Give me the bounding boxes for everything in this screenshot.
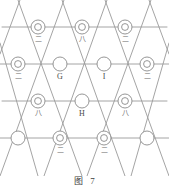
node-label-n-r0-c1: 二 bbox=[31, 36, 45, 43]
lattice-node-double-circle bbox=[53, 131, 67, 145]
lattice-node-double-circle bbox=[118, 94, 132, 108]
lattice-node-circle bbox=[75, 94, 89, 108]
lattice-node-double-circle bbox=[31, 20, 45, 34]
node-label-n-r3-c2: 二 bbox=[97, 147, 111, 154]
node-label-n-r0-c3: 二 bbox=[118, 36, 132, 43]
lattice-node-double-circle bbox=[118, 20, 132, 34]
lattice-node-double-circle bbox=[31, 94, 45, 108]
caption-number: 7 bbox=[90, 176, 95, 186]
lattice-edge-diagonal bbox=[62, 0, 125, 176]
figure-caption: 图7 bbox=[0, 174, 169, 187]
lattice-node-double-circle bbox=[97, 131, 111, 145]
horizontal-edge-group bbox=[0, 27, 169, 138]
node-label-n-r1-c0: 二 bbox=[11, 73, 25, 80]
caption-label: 图 bbox=[74, 176, 83, 186]
node-label-n-r1-c2: I bbox=[97, 73, 111, 81]
lattice-node-circle bbox=[97, 57, 111, 71]
lattice-node-double-circle bbox=[75, 20, 89, 34]
node-label-n-r1-c3: 二 bbox=[140, 73, 154, 80]
lattice-node-circle bbox=[11, 131, 25, 145]
node-label-n-r1-c1: G bbox=[53, 73, 67, 81]
lattice-node-circle bbox=[140, 131, 154, 145]
lattice-edge-diagonal bbox=[18, 0, 82, 176]
triangular-lattice-diagram bbox=[0, 0, 169, 176]
lattice-node-double-circle bbox=[140, 57, 154, 71]
node-label-n-r2-c1: 八 bbox=[31, 110, 45, 117]
node-label-n-r2-c2: H bbox=[75, 110, 89, 118]
node-label-n-r3-c1: 二 bbox=[53, 147, 67, 154]
figure-container: 二八二二GI二八H八二二 图7 bbox=[0, 0, 169, 192]
lattice-node-circle bbox=[53, 57, 67, 71]
node-label-n-r0-c2: 八 bbox=[75, 36, 89, 43]
node-label-n-r2-c3: 八 bbox=[118, 110, 132, 117]
lattice-edge-diagonal bbox=[105, 0, 169, 176]
lattice-node-double-circle bbox=[11, 57, 25, 71]
